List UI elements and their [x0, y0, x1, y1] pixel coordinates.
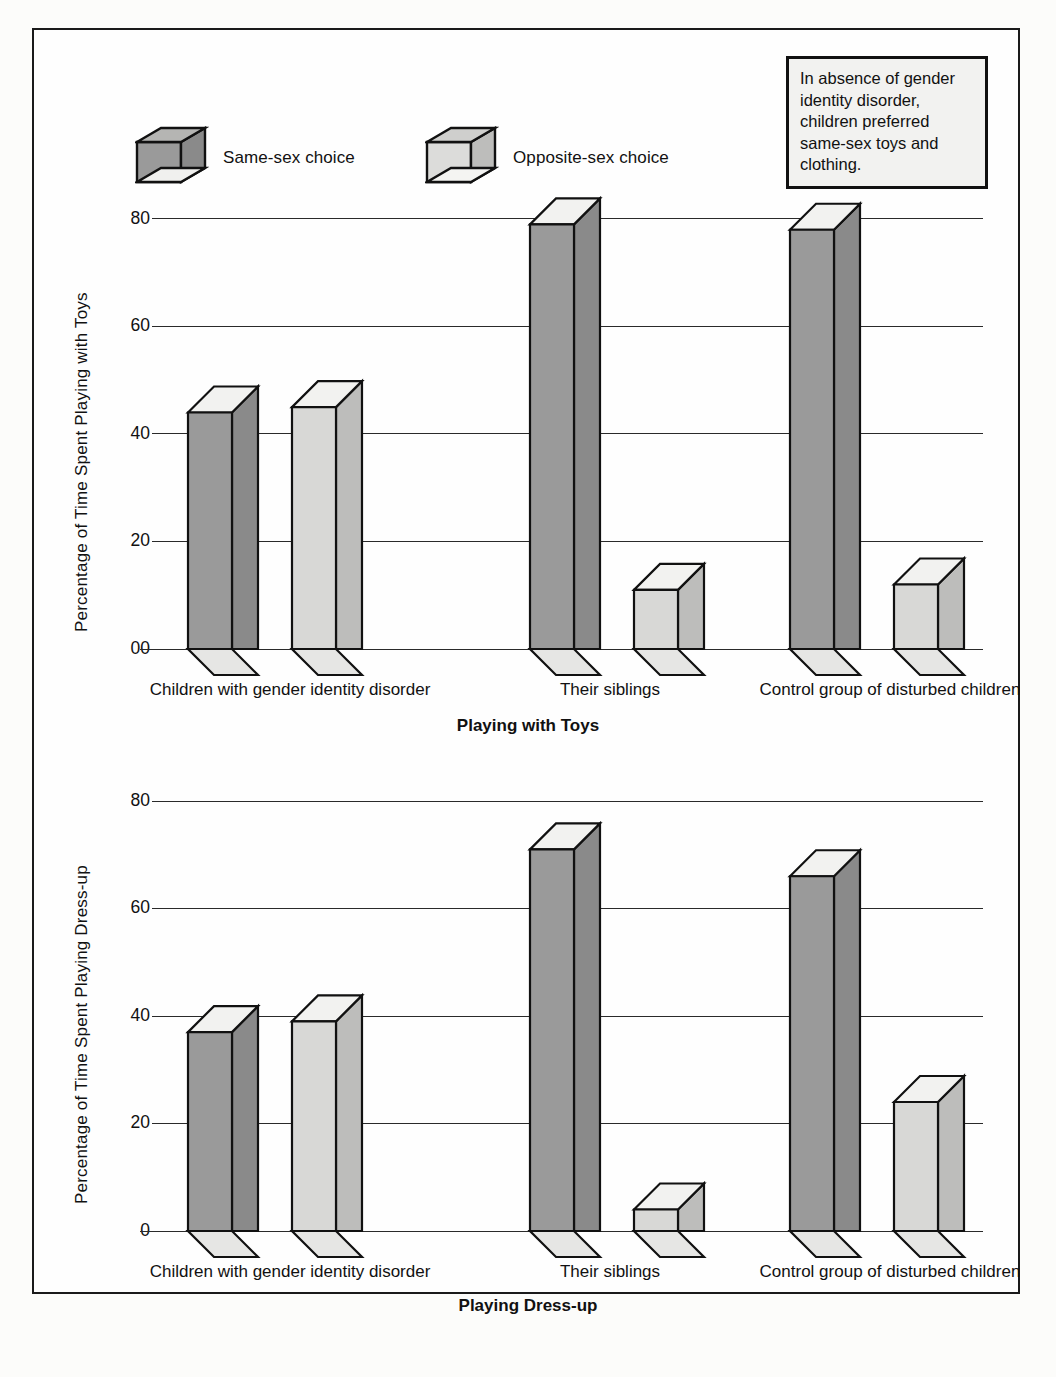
- chart-dressup-category-1: Their siblings: [480, 1262, 740, 1282]
- chart-dressup-category-2: Control group of disturbed children: [730, 1262, 1050, 1282]
- chart-dressup-axis-title: Playing Dress-up: [328, 1296, 728, 1316]
- figure-page: Same-sex choice Opposite-sex choice In a…: [0, 0, 1056, 1377]
- chart-dressup-bars: [0, 0, 1056, 1300]
- chart-dressup-category-0: Children with gender identity disorder: [110, 1262, 470, 1282]
